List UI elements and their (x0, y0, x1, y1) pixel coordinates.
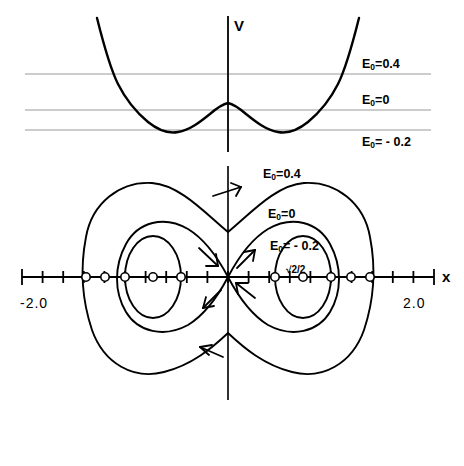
v-axis-label: V (234, 18, 244, 33)
label-text-E0: E0 (362, 135, 375, 149)
label-text-value: =0 (281, 207, 295, 221)
x-axis-max-label: 2.0 (403, 295, 425, 311)
flow-direction-arrows (199, 183, 255, 357)
turning-point-marker (177, 273, 185, 281)
label-text-value: = - 0.2 (283, 239, 319, 253)
turning-point-marker (366, 273, 374, 281)
label-text-E0: E0 (270, 239, 283, 253)
phase-energy-label-0.4: E0=0.4 (263, 168, 301, 182)
potential-energy-label--0.2: E0= - 0.2 (362, 136, 411, 150)
sqrt2-over-2-label: √2/2 (286, 265, 305, 275)
turning-point-marker (271, 273, 279, 281)
phase-panel (22, 166, 434, 400)
turning-point-marker (149, 273, 157, 281)
x-axis-min-label: -2.0 (20, 295, 48, 311)
label-text-E0: E0 (362, 57, 375, 71)
potential-energy-label-0: E0=0 (362, 94, 389, 108)
label-text-E0: E0 (362, 93, 375, 107)
label-text-value: =0 (375, 93, 389, 107)
potential-energy-label-0.4: E0=0.4 (362, 58, 400, 72)
potential-panel (25, 16, 431, 152)
label-text-value: = - 0.2 (375, 135, 411, 149)
phase-energy-label-0: E0=0 (268, 208, 295, 222)
turning-point-marker (327, 273, 335, 281)
turning-point-marker (347, 273, 355, 281)
label-text-value: =0.4 (375, 57, 400, 71)
phase-energy-label--0.2: E0= - 0.2 (270, 240, 319, 254)
label-text-E0: E0 (263, 167, 276, 181)
turning-point-marker (82, 273, 90, 281)
x-axis-label: x (442, 269, 450, 284)
turning-point-marker (101, 273, 109, 281)
label-text-value: =0.4 (276, 167, 301, 181)
turning-point-marker (121, 273, 129, 281)
label-text-E0: E0 (268, 207, 281, 221)
